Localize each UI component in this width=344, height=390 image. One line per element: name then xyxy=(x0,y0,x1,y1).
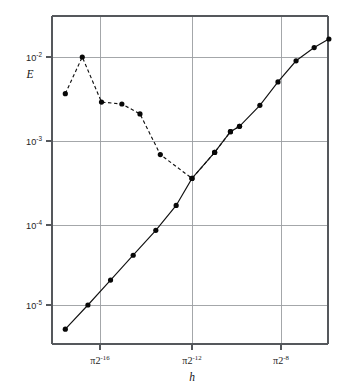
data-point-marker xyxy=(326,36,331,41)
figure-container: 10-2 10-3 10-4 10-5 π2-16 π2-12 π2-8 E h xyxy=(0,0,344,390)
data-point-marker xyxy=(158,152,163,157)
data-point-marker xyxy=(293,58,298,63)
error-vs-step-size-chart: 10-2 10-3 10-4 10-5 π2-16 π2-12 π2-8 E h xyxy=(0,0,344,390)
data-point-marker xyxy=(137,111,142,116)
data-point-marker xyxy=(131,253,136,258)
data-point-marker xyxy=(99,99,104,104)
data-point-marker xyxy=(237,124,242,129)
data-point-marker xyxy=(257,103,262,108)
data-point-marker xyxy=(63,91,68,96)
data-point-marker xyxy=(312,45,317,50)
data-point-marker xyxy=(189,176,194,181)
data-point-marker xyxy=(212,150,217,155)
data-point-marker xyxy=(228,129,233,134)
data-point-marker xyxy=(80,54,85,59)
data-point-marker xyxy=(119,101,124,106)
data-point-marker xyxy=(108,278,113,283)
data-point-marker xyxy=(63,327,68,332)
data-point-marker xyxy=(275,79,280,84)
data-point-marker xyxy=(85,302,90,307)
data-point-marker xyxy=(174,203,179,208)
x-axis-title: h xyxy=(189,371,195,383)
y-axis-title: E xyxy=(25,68,33,80)
data-point-marker xyxy=(153,228,158,233)
